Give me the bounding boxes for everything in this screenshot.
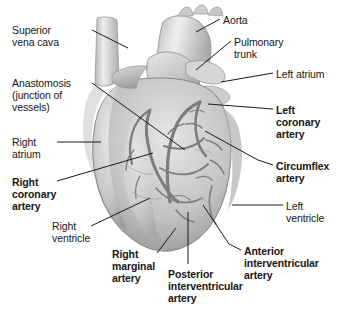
label-line: Anastomosis [12, 77, 71, 89]
label-line: artery [244, 269, 273, 281]
label-line: Right [12, 176, 38, 188]
label-line: (junction of [12, 89, 62, 101]
label-circumflex-artery: Circumflexartery [276, 160, 329, 184]
label-pulmonary-trunk: Pulmonarytrunk [234, 36, 283, 60]
label-line: Right [112, 248, 138, 260]
label-superior-vena-cava: Superiorvena cava [12, 24, 59, 48]
label-line: coronary [276, 116, 320, 128]
label-line: vena cava [12, 36, 59, 48]
label-line: Right [52, 220, 76, 232]
label-right-coronary-artery: Rightcoronaryartery [12, 176, 56, 212]
label-anastomosis: Anastomosis(junction ofvessels) [12, 77, 71, 113]
label-line: marginal [112, 260, 155, 272]
label-line: artery [112, 272, 141, 284]
label-line: artery [168, 292, 197, 304]
label-line: Left [286, 200, 303, 212]
label-line: vessels) [12, 101, 50, 113]
label-line: ventricle [286, 212, 324, 224]
label-line: Left atrium [276, 68, 325, 80]
heart-anatomy-figure: Superiorvena cava Anastomosis(junction o… [0, 0, 337, 311]
label-line: Circumflex [276, 160, 329, 172]
label-line: Right [12, 136, 36, 148]
label-line: atrium [12, 148, 41, 160]
label-right-ventricle: Rightventricle [52, 220, 90, 244]
label-right-atrium: Rightatrium [12, 136, 41, 160]
label-line: Posterior [168, 268, 213, 280]
label-line: Anterior [244, 245, 284, 257]
label-aorta: Aorta [223, 14, 248, 26]
label-line: trunk [234, 48, 257, 60]
label-line: Aorta [223, 14, 248, 26]
label-line: Pulmonary [234, 36, 283, 48]
label-right-marginal-artery: Rightmarginalartery [112, 248, 155, 284]
label-line: artery [276, 172, 305, 184]
label-line: coronary [12, 188, 56, 200]
label-line: Left [276, 104, 295, 116]
label-left-ventricle: Leftventricle [286, 200, 324, 224]
label-line: artery [276, 128, 305, 140]
label-line: artery [12, 200, 41, 212]
label-left-coronary-artery: Leftcoronaryartery [276, 104, 320, 140]
label-left-atrium: Left atrium [276, 68, 325, 80]
label-line: interventricular [168, 280, 243, 292]
label-line: Superior [12, 24, 51, 36]
label-anterior-interventricular-artery: Anteriorinterventricularartery [244, 245, 319, 281]
label-posterior-interventricular-artery: Posteriorinterventricularartery [168, 268, 243, 304]
label-line: interventricular [244, 257, 319, 269]
label-line: ventricle [52, 232, 90, 244]
